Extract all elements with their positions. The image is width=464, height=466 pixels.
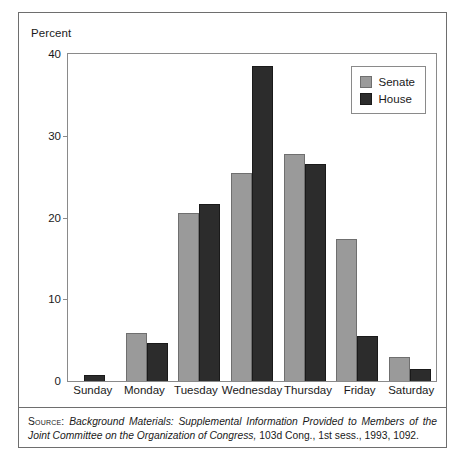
y-axis-title: Percent [31,27,71,39]
x-tick-label-monday: Monday [119,384,171,396]
y-tick-label-30: 30 [48,130,61,142]
bar-house-wednesday [252,66,273,381]
x-tick-label-saturday: Saturday [385,384,437,396]
bar-senate-wednesday [231,173,252,381]
x-axis-labels: SundayMondayTuesdayWednesdayThursdayFrid… [67,384,437,396]
bar-group-monday [121,54,174,381]
bar-group-sunday [68,54,121,381]
legend-label-senate: Senate [379,76,415,88]
bar-group-tuesday [173,54,226,381]
x-tick-label-thursday: Thursday [282,384,334,396]
y-tick-label-20: 20 [48,212,61,224]
bar-group-wednesday [226,54,279,381]
x-tick-label-sunday: Sunday [67,384,119,396]
source-citation-tail: 103d Cong., 1st sess., 1993, 1092. [256,430,419,441]
bar-house-friday [357,336,378,381]
y-tick-label-0: 0 [55,375,61,387]
y-tick-label-40: 40 [48,48,61,60]
source-note: Source: Background Materials: Supplement… [28,415,437,442]
x-tick-label-tuesday: Tuesday [170,384,222,396]
legend-swatch-house [360,93,372,105]
legend-item-senate: Senate [360,73,415,90]
legend: Senate House [351,66,426,114]
y-tick-label-10: 10 [48,293,61,305]
bar-house-monday [147,343,168,381]
bar-house-sunday [84,375,105,381]
bar-senate-thursday [284,154,305,381]
source-divider [19,407,446,408]
bar-house-tuesday [199,204,220,381]
bar-house-saturday [410,369,431,381]
bar-senate-friday [336,239,357,381]
plot-area: 010203040 Senate House [67,53,437,382]
x-tick-label-wednesday: Wednesday [222,384,283,396]
bar-senate-monday [126,333,147,381]
bar-senate-tuesday [178,213,199,381]
bar-senate-saturday [389,357,410,381]
bar-house-thursday [305,164,326,381]
legend-label-house: House [379,93,412,105]
legend-item-house: House [360,90,415,107]
legend-swatch-senate [360,76,372,88]
bar-group-thursday [278,54,331,381]
x-tick-label-friday: Friday [334,384,386,396]
source-label: Source: [28,416,64,427]
figure-panel: Percent 010203040 Senate House SundayMon… [18,12,447,448]
